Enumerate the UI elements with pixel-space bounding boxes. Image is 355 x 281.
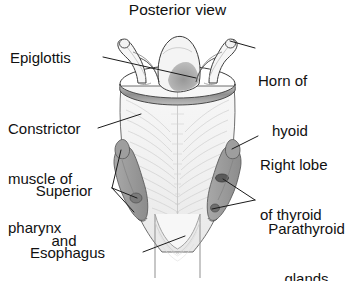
label-horn-line-1: Horn of bbox=[258, 73, 353, 90]
label-supinf-line-1: Superior bbox=[14, 183, 114, 200]
label-esophagus: Esophagus bbox=[30, 245, 150, 262]
label-parathyroid-line-2: glands bbox=[258, 271, 355, 281]
figure-title: Posterior view bbox=[0, 2, 355, 19]
label-parathyroid-line-1: Parathyroid bbox=[258, 221, 355, 238]
label-parathyroid-glands: Parathyroid glands bbox=[258, 188, 355, 281]
label-epiglottis: Epiglottis bbox=[10, 50, 115, 67]
label-constrictor-line-1: Constrictor bbox=[8, 121, 118, 138]
label-right-lobe-line-1: Right lobe bbox=[260, 157, 355, 174]
